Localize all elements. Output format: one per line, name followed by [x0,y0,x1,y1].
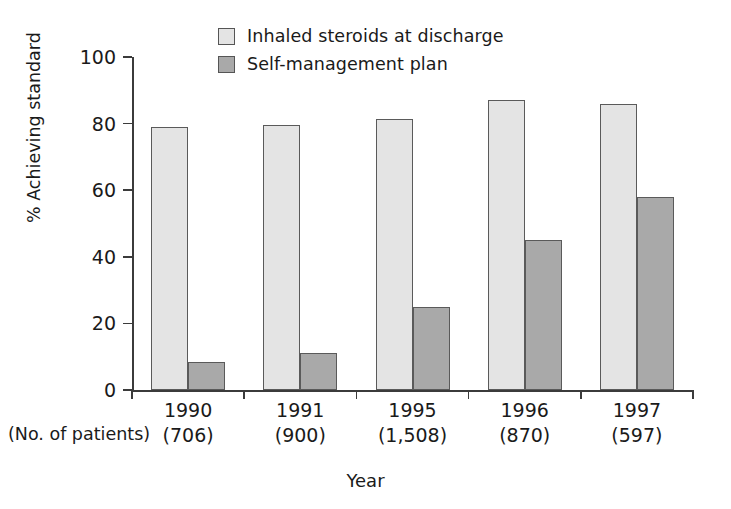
bar-chart: Inhaled steroids at discharge Self-manag… [0,0,731,509]
bar-self-management-plan-1996 [525,240,562,390]
x-axis-patient-count-label: (870) [499,422,550,448]
x-axis-tick [580,390,582,399]
bar-inhaled-steroids-1990 [151,127,188,390]
legend-swatch-light-gray-square [218,28,235,45]
y-axis-tick-label: 20 [0,312,116,334]
y-axis-tick-label: 100 [0,46,116,68]
bar-self-management-plan-1991 [300,353,337,390]
bar-self-management-plan-1997 [637,197,674,390]
x-axis-label-group-1995: 1995(1,508) [378,398,447,448]
x-axis-label-group-1997: 1997(597) [611,398,662,448]
bar-inhaled-steroids-1996 [488,100,525,390]
y-axis-tick-label: 80 [0,113,116,135]
x-axis-year-label: 1991 [275,398,326,422]
x-axis-year-label: 1995 [378,398,447,422]
x-axis-patient-count-label: (1,508) [378,422,447,448]
y-axis-tick-label: 0 [0,379,116,401]
y-axis-tick [123,323,132,325]
legend-item-inhaled-steroids: Inhaled steroids at discharge [218,22,504,50]
y-axis-tick [123,256,132,258]
bar-inhaled-steroids-1991 [263,125,300,390]
x-axis-label-group-1991: 1991(900) [275,398,326,448]
y-axis-tick [123,56,132,58]
x-axis-patient-count-label: (706) [163,422,214,448]
x-axis-year-label: 1997 [611,398,662,422]
bar-inhaled-steroids-1995 [376,119,413,390]
patients-count-caption: (No. of patients) [8,424,150,444]
legend-label-inhaled-steroids: Inhaled steroids at discharge [247,26,504,46]
y-axis-tick [123,189,132,191]
x-axis-tick [692,390,694,399]
x-axis-tick [131,390,133,399]
x-axis-patient-count-label: (597) [611,422,662,448]
x-axis-tick [243,390,245,399]
x-axis-label-group-1990: 1990(706) [163,398,214,448]
x-axis-title: Year [0,470,731,491]
bar-series-group [132,57,693,390]
x-axis-patient-count-label: (900) [275,422,326,448]
x-axis-tick [468,390,470,399]
x-axis-line [132,390,693,392]
bar-self-management-plan-1990 [188,362,225,390]
x-axis-year-label: 1996 [499,398,550,422]
bar-inhaled-steroids-1997 [600,104,637,390]
bar-self-management-plan-1995 [413,307,450,390]
x-axis-tick [356,390,358,399]
x-axis-label-group-1996: 1996(870) [499,398,550,448]
y-axis-tick [123,123,132,125]
y-axis-tick-label: 40 [0,246,116,268]
y-axis-tick-label: 60 [0,179,116,201]
plot-area [132,57,693,390]
x-axis-year-label: 1990 [163,398,214,422]
